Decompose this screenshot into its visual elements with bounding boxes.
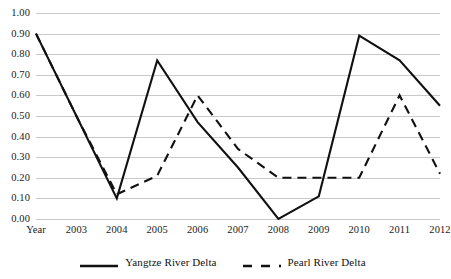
x-tick-label: 2006 [187, 224, 208, 236]
x-tick-label: 2007 [227, 224, 248, 236]
legend-label: Pearl River Delta [288, 256, 366, 268]
legend-swatch-dashed [243, 257, 281, 267]
series-layer [36, 13, 440, 219]
y-tick-label: 0.00 [11, 214, 30, 225]
series-line-yangtze-river-delta [36, 34, 440, 219]
y-tick-label: 0.50 [11, 111, 30, 122]
y-tick-label: 0.40 [11, 132, 30, 143]
y-axis: 1.000.900.800.700.600.500.400.300.200.10… [0, 0, 34, 232]
legend-swatch-solid [80, 257, 118, 267]
y-tick-label: 1.00 [11, 8, 30, 19]
legend-entry: Yangtze River Delta [80, 256, 216, 268]
legend-entry: Pearl River Delta [243, 256, 366, 268]
y-tick-label: 0.70 [11, 70, 30, 81]
gridline [36, 219, 440, 220]
x-tick-label: 2003 [66, 224, 87, 236]
y-tick-label: 0.30 [11, 152, 30, 163]
x-tick-label: 2010 [348, 224, 369, 236]
x-tick-label: Year [26, 224, 46, 236]
x-tick-label: 2009 [308, 224, 329, 236]
x-tick-label: 2012 [429, 224, 450, 236]
chart-legend: Yangtze River DeltaPearl River Delta [0, 252, 446, 272]
y-tick-label: 0.60 [11, 90, 30, 101]
y-tick-label: 0.90 [11, 29, 30, 40]
x-tick-label: 2005 [146, 224, 167, 236]
legend-label: Yangtze River Delta [125, 256, 216, 268]
plot-area [36, 13, 440, 219]
y-tick-label: 0.10 [11, 193, 30, 204]
y-tick-label: 0.20 [11, 173, 30, 184]
x-tick-label: 2008 [268, 224, 289, 236]
x-tick-label: 2011 [389, 224, 410, 236]
x-axis: Year200320042005200620072008200920102011… [36, 224, 440, 244]
x-tick-label: 2004 [106, 224, 127, 236]
y-tick-label: 0.80 [11, 49, 30, 60]
series-line-pearl-river-delta [36, 34, 440, 195]
